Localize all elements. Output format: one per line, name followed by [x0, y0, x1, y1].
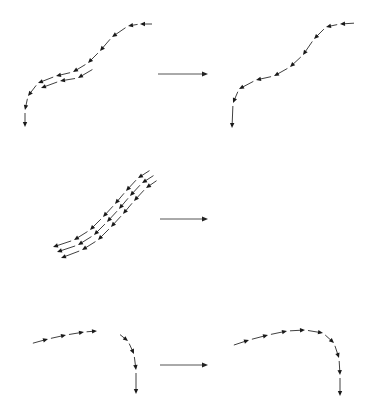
transition-arrow — [160, 363, 208, 368]
right-arrow-icon — [202, 72, 208, 77]
before-panel — [23, 22, 152, 127]
arrowhead-icon — [41, 84, 46, 88]
arrowhead-icon — [230, 123, 234, 128]
arrowhead-icon — [318, 330, 323, 334]
arrowhead-icon — [61, 334, 66, 338]
transition-arrow — [160, 217, 208, 222]
arrowhead-icon — [244, 339, 249, 343]
arrowhead-icon — [73, 68, 78, 72]
arrowhead-icon — [82, 245, 87, 250]
streamline — [234, 328, 342, 396]
after-panel — [230, 22, 354, 128]
row-remove-streamlines — [53, 171, 208, 259]
streamline — [33, 329, 97, 343]
streamline — [23, 22, 152, 127]
before-panel — [33, 329, 138, 394]
arrowhead-icon — [335, 353, 339, 358]
after-panel — [234, 328, 342, 396]
arrowhead-icon — [28, 91, 33, 96]
arrowhead-icon — [338, 391, 342, 396]
arrowhead-icon — [61, 254, 66, 258]
right-arrow-icon — [202, 217, 208, 222]
arrowhead-icon — [326, 24, 331, 28]
arrowhead-icon — [56, 73, 61, 77]
arrowhead-icon — [300, 328, 305, 332]
arrowhead-icon — [340, 22, 345, 26]
arrowhead-icon — [142, 178, 147, 183]
arrowhead-icon — [338, 370, 342, 375]
arrowhead-icon — [282, 330, 287, 334]
streamline — [53, 171, 149, 248]
arrowhead-icon — [23, 122, 27, 127]
arrowhead-icon — [74, 235, 79, 240]
row-merge-streamlines — [23, 22, 354, 128]
arrowhead-icon — [24, 105, 28, 110]
arrowhead-icon — [138, 173, 143, 178]
before-panel — [53, 171, 157, 259]
arrowhead-icon — [263, 334, 268, 338]
arrowhead-icon — [112, 32, 117, 37]
arrowhead-icon — [57, 248, 62, 252]
streamline-diagram — [0, 0, 376, 412]
arrowhead-icon — [128, 23, 133, 27]
arrowhead-icon — [53, 243, 58, 247]
arrowhead-icon — [38, 79, 43, 83]
arrowhead-icon — [303, 50, 308, 55]
arrowhead-icon — [60, 78, 65, 82]
streamline — [120, 335, 138, 394]
transition-arrow — [158, 72, 208, 77]
arrowhead-icon — [78, 240, 83, 245]
arrowhead-icon — [79, 331, 84, 335]
row-join-streamlines — [33, 328, 342, 396]
arrowhead-icon — [140, 22, 145, 26]
arrowhead-icon — [92, 329, 97, 333]
arrowhead-icon — [43, 338, 48, 342]
streamline-segment — [232, 106, 233, 126]
arrowhead-icon — [256, 77, 261, 81]
right-arrow-icon — [202, 363, 208, 368]
streamline — [230, 22, 354, 128]
arrowhead-icon — [134, 389, 138, 394]
arrowhead-icon — [133, 365, 137, 370]
arrowhead-icon — [146, 183, 151, 188]
